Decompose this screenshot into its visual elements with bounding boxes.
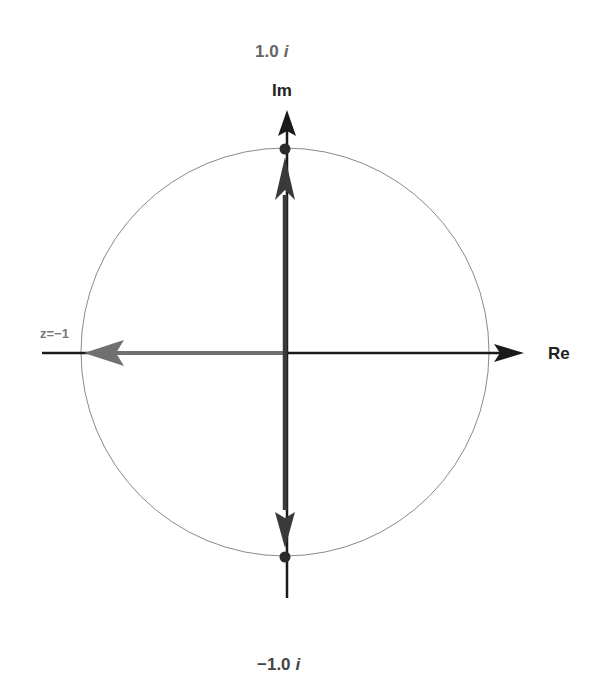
complex-plane-diagram: 1.0i Im Re z=−1 −1.0i — [0, 0, 604, 690]
point-minus-i — [280, 552, 291, 563]
vector-to-i-arrowhead-icon — [275, 157, 295, 200]
top-value-label: 1.0i — [255, 42, 290, 61]
vector-to-minus-i-arrowhead-icon — [275, 512, 295, 548]
bottom-value-label: −1.0i — [257, 655, 302, 674]
point-i — [280, 144, 291, 155]
real-axis-label: Re — [548, 344, 570, 363]
imaginary-axis-label: Im — [272, 81, 292, 100]
point-minus-one-label: z=−1 — [40, 326, 69, 341]
